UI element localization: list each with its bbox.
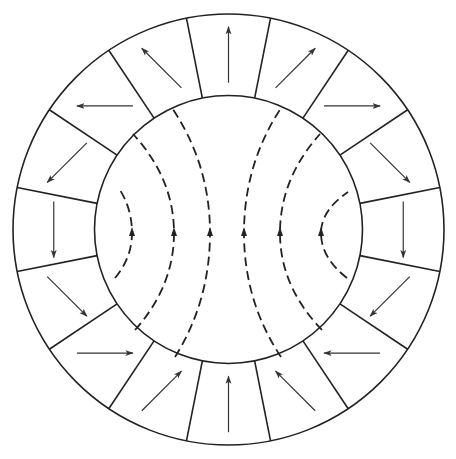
segment-divider (49, 304, 117, 349)
segment-divider (340, 304, 408, 349)
segment-divider (17, 187, 97, 203)
magnetization-arrow-down-right-icon (47, 277, 87, 317)
segment-divider (109, 341, 154, 409)
magnetization-arrow-up-left-icon (142, 48, 182, 88)
magnetization-arrow-up-right-icon (142, 371, 182, 411)
field-lines (115, 108, 348, 357)
field-direction-arrow-icon (171, 227, 177, 236)
segment-divider (360, 187, 440, 203)
field-line-right-inner (321, 192, 348, 278)
magnetization-arrow-up-left-icon (276, 371, 316, 411)
magnetization-arrow-down-right-icon (370, 143, 410, 183)
magnetization-arrow-down-left-icon (370, 277, 410, 317)
magnetization-arrow-up-right-icon (276, 48, 316, 88)
segment-divider (186, 361, 202, 441)
segment-divider (360, 256, 440, 272)
segment-divider (340, 110, 408, 155)
halbach-cylinder-diagram (0, 0, 456, 459)
segment-divider (49, 110, 117, 155)
field-line-left-middle (133, 134, 174, 330)
field-direction-arrow-icon (318, 227, 324, 236)
segment-divider (17, 256, 97, 272)
field-line-left-inner (115, 190, 132, 278)
field-line-right-middle (280, 134, 322, 330)
segment-divider (109, 50, 154, 118)
field-direction-arrow-icon (241, 227, 247, 236)
segment-divider (255, 361, 271, 441)
magnetization-arrows (47, 27, 409, 433)
segment-divider (255, 18, 271, 98)
magnetization-arrow-down-left-icon (47, 143, 87, 183)
segment-divider (303, 50, 348, 118)
segment-divider (303, 341, 348, 409)
field-line-left-center (172, 108, 210, 357)
segment-divider (186, 18, 202, 98)
field-direction-arrow-icon (129, 227, 135, 236)
field-line-right-center (244, 108, 281, 357)
field-direction-arrow-icon (207, 227, 213, 236)
field-direction-arrow-icon (277, 227, 283, 236)
